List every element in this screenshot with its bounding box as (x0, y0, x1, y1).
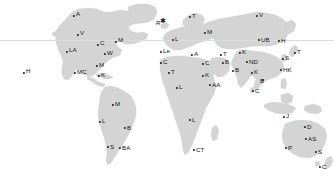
marker-nd-newdelhi-dot[interactable] (246, 61, 248, 63)
marker-k-khartoum-label: K (205, 72, 209, 78)
marker-b-brasilia-label: B (127, 125, 131, 131)
marker-a-alaska-label: A (76, 11, 80, 17)
marker-hk-hongkong-dot[interactable] (280, 69, 282, 71)
marker-c-christchurch-label: C (322, 164, 327, 170)
marker-l-london-label: L (175, 36, 179, 42)
marker-d-darwin-dot[interactable] (304, 126, 306, 128)
marker-c-cairo-dot[interactable] (202, 63, 204, 65)
marker-b-bombay-dot[interactable] (232, 70, 234, 72)
marker-m-moscow-dot[interactable] (204, 32, 206, 34)
marker-v-verkhoyansk-label: V (259, 12, 263, 18)
marker-s-seoul-label: S (285, 55, 289, 61)
marker-b-baghdad-dot[interactable] (222, 62, 224, 64)
marker-c-cairo-label: C (205, 60, 210, 66)
marker-ub-ulaanbaatar-label: UB (261, 37, 270, 43)
marker-t-tehran-label: T (223, 51, 227, 57)
marker-a-alaska-dot[interactable] (73, 15, 75, 17)
marker-s-sydney-dot[interactable] (315, 151, 317, 153)
marker-l-lagos-dot[interactable] (176, 87, 178, 89)
marker-t-timbuktu-dot[interactable] (168, 72, 170, 74)
marker-la-losangeles-dot[interactable] (66, 51, 68, 53)
marker-m-manaus-label: M (115, 101, 120, 107)
marker-j-jakarta-dot[interactable] (283, 116, 285, 118)
marker-j-jakarta-label: J (286, 113, 289, 119)
marker-t-tromso-label: T (192, 13, 196, 19)
marker-k-khartoum-dot[interactable] (202, 75, 204, 77)
marker-m-montreal-dot[interactable] (115, 41, 117, 43)
marker-h-honolulu-label: H (26, 68, 31, 74)
marker-aa-addisababa-dot[interactable] (209, 84, 211, 86)
marker-as-alicesprings-dot[interactable] (305, 138, 307, 140)
marker-k-kolkata-label: K (254, 69, 258, 75)
city-marker-layer: AVLACMWMMCKH✱RTLMLeCACVUBHTKNDBSTKHKBCAA… (0, 0, 334, 184)
marker-t-tromso-dot[interactable] (189, 16, 191, 18)
marker-l-lima-dot[interactable] (99, 121, 101, 123)
marker-k-kingston-dot[interactable] (98, 75, 100, 77)
marker-c-chicago-dot[interactable] (97, 44, 99, 46)
marker-s-santiago-label: S (110, 144, 114, 150)
marker-k-kabul-dot[interactable] (239, 52, 241, 54)
marker-c-colombo-dot[interactable] (252, 90, 254, 92)
marker-m-miami-dot[interactable] (96, 65, 98, 67)
marker-p-perth-dot[interactable] (285, 147, 287, 149)
marker-t-timbuktu-label: T (171, 69, 175, 75)
marker-s-seoul-dot[interactable] (282, 58, 284, 60)
marker-ct-capetown-dot[interactable] (193, 149, 195, 151)
marker-a-athens-label: A (194, 51, 198, 57)
marker-b-bombay-label: B (235, 67, 239, 73)
marker-t-tokyo-label: T (297, 49, 301, 55)
marker-c-colombo-label: C (255, 88, 260, 94)
marker-l-lima-label: L (102, 118, 106, 124)
marker-c-casablanca-dot[interactable] (160, 62, 162, 64)
marker-v-verkhoyansk-dot[interactable] (256, 15, 258, 17)
marker-s-santiago-dot[interactable] (107, 146, 109, 148)
marker-k-kabul-label: K (242, 49, 246, 55)
marker-hk-hongkong-label: HK (283, 67, 292, 73)
marker-k-kingston-label: K (101, 72, 105, 78)
marker-la-losangeles-label: LA (69, 47, 77, 53)
marker-s-sydney-label: S (318, 149, 322, 155)
marker-m-manaus-dot[interactable] (112, 104, 114, 106)
marker-h-harbin-label: H (281, 38, 286, 44)
marker-m-miami-label: M (99, 62, 104, 68)
marker-r-reykjavik-label: R (156, 20, 161, 26)
marker-b-bangkok-label: B (260, 78, 264, 84)
marker-c-chicago-label: C (100, 40, 105, 46)
marker-t-tehran-dot[interactable] (220, 54, 222, 56)
marker-b-baghdad-label: B (225, 59, 229, 65)
marker-l-lagos-label: L (179, 84, 183, 90)
marker-v-vancouver-label: V (80, 30, 84, 36)
marker-c-christchurch-dot[interactable] (319, 166, 321, 168)
marker-mc-mexicocity-label: MC (77, 69, 87, 75)
marker-w-washington-label: W (107, 50, 113, 56)
marker-h-honolulu-dot[interactable] (23, 72, 25, 74)
marker-p-perth-label: P (288, 145, 292, 151)
marker-ub-ulaanbaatar-dot[interactable] (258, 39, 260, 41)
marker-a-athens-dot[interactable] (191, 54, 193, 56)
marker-h-harbin-dot[interactable] (278, 40, 280, 42)
marker-ct-capetown-label: CT (196, 147, 204, 153)
marker-t-tokyo-dot[interactable] (294, 52, 296, 54)
marker-w-washington-dot[interactable] (104, 53, 106, 55)
marker-d-darwin-label: D (307, 124, 312, 130)
marker-c-casablanca-label: C (163, 59, 168, 65)
marker-ba-buenosaires-dot[interactable] (119, 147, 121, 149)
marker-le-lisbon-label: Le (163, 48, 170, 54)
marker-aa-addisababa-label: AA (212, 82, 220, 88)
marker-mc-mexicocity-dot[interactable] (74, 72, 76, 74)
marker-m-moscow-label: M (207, 29, 212, 35)
marker-l-london-dot[interactable] (172, 39, 174, 41)
marker-as-alicesprings-label: AS (308, 136, 316, 142)
marker-l-luanda-dot[interactable] (189, 119, 191, 121)
marker-l-luanda-label: L (192, 117, 196, 123)
marker-ba-buenosaires-label: BA (122, 145, 130, 151)
marker-b-brasilia-dot[interactable] (124, 127, 126, 129)
marker-nd-newdelhi-label: ND (249, 59, 258, 65)
world-map-container: AVLACMWMMCKH✱RTLMLeCACVUBHTKNDBSTKHKBCAA… (0, 0, 334, 184)
marker-m-montreal-label: M (118, 37, 123, 43)
marker-v-vancouver-dot[interactable] (77, 34, 79, 36)
marker-k-kolkata-dot[interactable] (251, 72, 253, 74)
marker-le-lisbon-dot[interactable] (160, 51, 162, 53)
